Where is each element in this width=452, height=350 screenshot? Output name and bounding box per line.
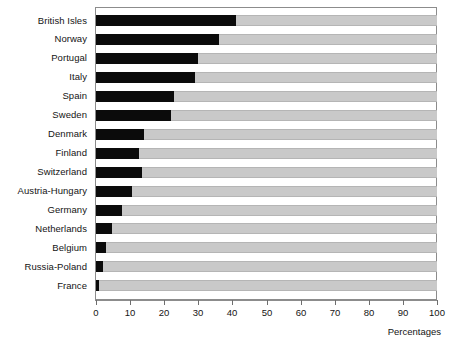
bar-segment-remainder xyxy=(96,186,437,197)
category-label: Austria-Hungary xyxy=(0,185,91,196)
bar-row xyxy=(96,242,437,253)
x-axis-line xyxy=(95,300,437,301)
bar-segment-filled xyxy=(96,261,103,272)
x-tick xyxy=(267,300,268,305)
category-label: Norway xyxy=(0,33,91,44)
bar-segment-filled xyxy=(96,223,112,234)
x-tick xyxy=(335,300,336,305)
bar-segment-remainder xyxy=(96,205,437,216)
x-tick xyxy=(232,300,233,305)
x-tick-label: 30 xyxy=(183,307,213,318)
bar-row xyxy=(96,91,437,102)
category-label: Russia-Poland xyxy=(0,261,91,272)
bar-row xyxy=(96,223,437,234)
bar-segment-filled xyxy=(96,186,132,197)
category-label: Spain xyxy=(0,90,91,101)
bar-segment-filled xyxy=(96,242,106,253)
bar-row xyxy=(96,72,437,83)
bar-segment-filled xyxy=(96,110,171,121)
bar-row xyxy=(96,280,437,291)
category-label: France xyxy=(0,280,91,291)
bar-row xyxy=(96,261,437,272)
category-label: Finland xyxy=(0,147,91,158)
bar-segment-filled xyxy=(96,167,142,178)
bar-segment-filled xyxy=(96,72,195,83)
bar-segment-filled xyxy=(96,148,139,159)
bar-segment-remainder xyxy=(96,148,437,159)
category-label: Germany xyxy=(0,204,91,215)
category-axis-labels: British IslesNorwayPortugalItalySpainSwe… xyxy=(0,0,91,350)
x-tick-label: 90 xyxy=(388,307,418,318)
x-tick-label: 70 xyxy=(320,307,350,318)
bar-row xyxy=(96,186,437,197)
category-label: Switzerland xyxy=(0,166,91,177)
category-label: Portugal xyxy=(0,52,91,63)
bar-row xyxy=(96,129,437,140)
x-tick xyxy=(198,300,199,305)
bar-row xyxy=(96,110,437,121)
bar-segment-filled xyxy=(96,91,174,102)
category-label: British Isles xyxy=(0,15,91,26)
x-tick xyxy=(164,300,165,305)
x-tick-label: 60 xyxy=(286,307,316,318)
category-label: Italy xyxy=(0,71,91,82)
x-tick-label: 40 xyxy=(217,307,247,318)
bar-segment-remainder xyxy=(96,129,437,140)
bar-segment-remainder xyxy=(96,280,437,291)
x-tick-label: 0 xyxy=(81,307,111,318)
category-label: Sweden xyxy=(0,109,91,120)
x-tick xyxy=(437,300,438,305)
bar-row xyxy=(96,15,437,26)
bar-segment-filled xyxy=(96,34,219,45)
bar-row xyxy=(96,34,437,45)
bar-segment-filled xyxy=(96,53,198,64)
bar-segment-remainder xyxy=(96,261,437,272)
stacked-bar-chart: British IslesNorwayPortugalItalySpainSwe… xyxy=(0,0,452,350)
bar-segment-remainder xyxy=(96,242,437,253)
x-tick xyxy=(301,300,302,305)
x-tick xyxy=(130,300,131,305)
x-tick-label: 20 xyxy=(149,307,179,318)
bar-row xyxy=(96,167,437,178)
x-axis-title: Percentages xyxy=(388,326,441,337)
bar-segment-filled xyxy=(96,280,99,291)
x-tick xyxy=(96,300,97,305)
x-tick-label: 80 xyxy=(354,307,384,318)
bar-segment-filled xyxy=(96,15,236,26)
x-tick-label: 100 xyxy=(422,307,452,318)
bar-segment-filled xyxy=(96,129,144,140)
bar-row xyxy=(96,53,437,64)
category-label: Belgium xyxy=(0,242,91,253)
bar-segment-remainder xyxy=(96,167,437,178)
x-tick-label: 50 xyxy=(252,307,282,318)
bar-segment-remainder xyxy=(96,223,437,234)
bar-segment-filled xyxy=(96,205,122,216)
bar-row xyxy=(96,148,437,159)
x-tick xyxy=(369,300,370,305)
bars-layer xyxy=(96,8,437,299)
x-tick-label: 10 xyxy=(115,307,145,318)
bar-row xyxy=(96,205,437,216)
category-label: Netherlands xyxy=(0,223,91,234)
x-tick xyxy=(403,300,404,305)
category-label: Denmark xyxy=(0,128,91,139)
